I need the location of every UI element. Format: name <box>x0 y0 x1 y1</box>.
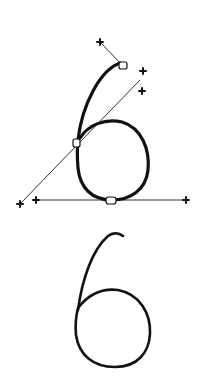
bezier-digit-diagram <box>0 0 198 385</box>
digit-6-outline <box>77 63 148 200</box>
upper-stroke-hook <box>78 63 120 140</box>
diag-handle-upper-cross-icon[interactable] <box>140 68 146 74</box>
bottom-anchor-icon[interactable] <box>106 197 116 204</box>
lower-stroke-hook <box>78 233 123 310</box>
upper-stroke-loop <box>77 121 148 200</box>
mid-anchor-icon[interactable] <box>73 139 80 147</box>
lower-stroke-loop <box>76 290 150 367</box>
horiz-handle-right-cross-icon[interactable] <box>183 197 189 203</box>
top-anchor-icon[interactable] <box>119 62 127 69</box>
diag-handle-lower-cross-icon[interactable] <box>139 88 145 94</box>
rendered-digit-6 <box>76 233 150 367</box>
horiz-handle-left-cross-icon[interactable] <box>33 197 39 203</box>
